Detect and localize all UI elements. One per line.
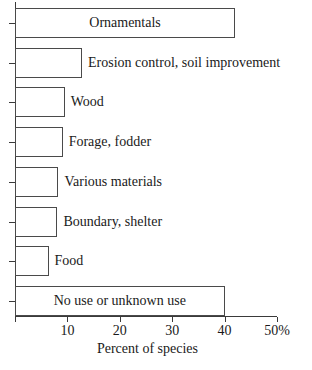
bar	[15, 207, 57, 237]
value-tick	[15, 317, 16, 322]
bar	[15, 167, 58, 197]
percent-of-species-bar-chart: OrnamentalsErosion control, soil improve…	[0, 0, 312, 370]
bar	[15, 127, 63, 157]
plot-area: OrnamentalsErosion control, soil improve…	[0, 0, 312, 318]
bar-category-label: Erosion control, soil improvement	[88, 48, 280, 78]
bar-category-label: Various materials	[64, 167, 162, 197]
category-tick	[9, 261, 15, 262]
value-tick-label: 30	[165, 323, 179, 339]
bar	[15, 246, 49, 276]
bar-category-label: Boundary, shelter	[63, 207, 162, 237]
bar	[15, 87, 65, 117]
value-tick	[120, 317, 121, 322]
category-tick	[9, 63, 15, 64]
x-axis-title: Percent of species	[0, 340, 295, 358]
category-tick	[9, 222, 15, 223]
value-tick-label: 50%	[264, 323, 290, 339]
category-tick	[9, 301, 15, 302]
bar-category-label: Ornamentals	[15, 8, 235, 38]
bar-category-label: Food	[55, 246, 84, 276]
value-axis-line	[15, 316, 277, 317]
value-tick-label: 10	[60, 323, 74, 339]
bar-category-label: Forage, fodder	[69, 127, 151, 157]
value-tick	[277, 317, 278, 322]
bar-category-label: No use or unknown use	[15, 286, 225, 316]
value-tick-label: 20	[113, 323, 127, 339]
bar	[15, 48, 82, 78]
value-tick	[172, 317, 173, 322]
value-tick	[225, 317, 226, 322]
category-tick	[9, 102, 15, 103]
category-tick	[9, 142, 15, 143]
category-tick	[9, 23, 15, 24]
category-tick	[9, 182, 15, 183]
value-tick-label: 40	[218, 323, 232, 339]
value-tick	[67, 317, 68, 322]
bar-category-label: Wood	[71, 87, 104, 117]
